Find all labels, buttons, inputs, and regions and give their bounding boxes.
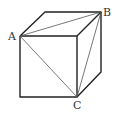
label-c: C <box>73 99 81 112</box>
cube-diagram: A B C <box>0 0 117 120</box>
diagonal-ac <box>20 36 77 97</box>
label-b: B <box>103 6 111 19</box>
label-a: A <box>7 30 17 43</box>
